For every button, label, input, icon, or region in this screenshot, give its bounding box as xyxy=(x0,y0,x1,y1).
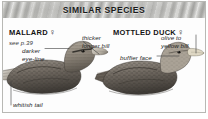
figure-header-band: SIMILAR SPECIES xyxy=(3,2,205,18)
similar-species-figure: SIMILAR SPECIES xyxy=(0,0,208,119)
callout-buffier-face: buffier face xyxy=(120,54,152,62)
mottled-eye xyxy=(178,51,181,53)
callout-line-1: thicker xyxy=(82,34,110,42)
callout-thicker-longer-bill: thicker longer bill xyxy=(82,34,110,50)
callout-line-2: longer bill xyxy=(82,42,110,50)
species-name-mallard: MALLARD xyxy=(9,28,48,37)
figure-header-title: SIMILAR SPECIES xyxy=(63,5,145,15)
callout-line-1: darker xyxy=(22,47,44,55)
callout-darker-eye-line: darker eye-line xyxy=(22,47,44,63)
callout-line-2: eye-line xyxy=(22,55,44,63)
female-symbol: ♀ xyxy=(49,27,55,37)
figure-panel: SIMILAR SPECIES xyxy=(2,1,206,113)
species-page-reference[interactable]: see p.39 xyxy=(9,40,56,46)
mottled-duck-illustration xyxy=(95,42,204,95)
callout-line-1: olive to xyxy=(161,34,189,42)
callout-whitish-tail: whitish tail xyxy=(13,101,43,109)
callout-line-2: yellow bill xyxy=(161,42,189,50)
callout-olive-to-yellow-bill: olive to yellow bill xyxy=(161,34,189,50)
callout-line-1: whitish tail xyxy=(13,101,43,109)
mallard-eye xyxy=(82,50,85,52)
species-heading-mallard: MALLARD♀ see p.39 xyxy=(9,21,56,46)
callout-line-1: buffier face xyxy=(120,54,152,62)
